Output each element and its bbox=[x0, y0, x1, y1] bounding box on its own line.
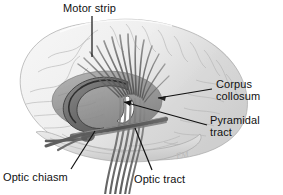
label-corpus-callosum-line2: collosum bbox=[216, 90, 260, 102]
label-pyramidal-tract: Pyramidal tract bbox=[210, 114, 260, 138]
label-pyramidal-tract-line1: Pyramidal bbox=[210, 114, 260, 126]
label-pyramidal-tract-line2: tract bbox=[210, 126, 260, 138]
label-optic-tract: Optic tract bbox=[134, 174, 185, 186]
label-corpus-callosum: Corpus collosum bbox=[216, 78, 260, 102]
label-motor-strip: Motor strip bbox=[63, 3, 116, 15]
label-corpus-callosum-line1: Corpus bbox=[216, 78, 260, 90]
label-optic-chiasm: Optic chiasm bbox=[3, 172, 68, 184]
